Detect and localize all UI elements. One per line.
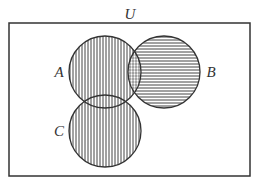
set-a-label: A <box>53 64 64 80</box>
set-b-label: B <box>206 64 215 80</box>
universe-label: U <box>125 6 137 22</box>
set-c-label: C <box>54 123 65 139</box>
venn-diagram: U A B C <box>0 0 260 183</box>
